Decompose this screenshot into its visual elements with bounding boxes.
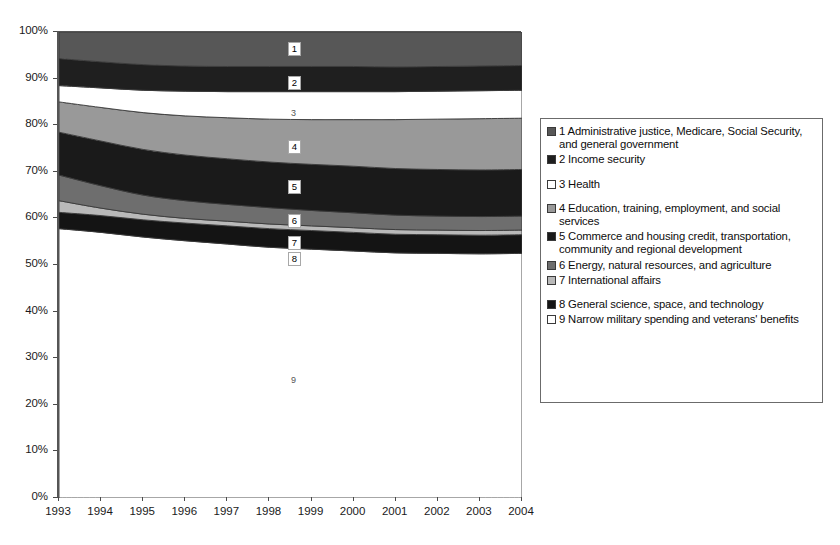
legend-item-label: 9 Narrow military spending and veterans'… xyxy=(559,313,799,326)
band-label-8: 8 xyxy=(288,252,301,266)
x-tick-mark xyxy=(395,497,396,501)
legend-item-3[interactable]: 3 Health xyxy=(547,178,817,191)
legend-swatch-icon xyxy=(547,155,556,164)
legend-swatch-icon xyxy=(547,232,556,241)
y-tick-label: 0% xyxy=(8,490,48,502)
legend-item-label: 7 International affairs xyxy=(559,274,661,287)
y-tick-label: 50% xyxy=(8,257,48,269)
band-label-2: 2 xyxy=(288,76,301,90)
x-tick-label: 1996 xyxy=(164,505,204,517)
x-tick-label: 2001 xyxy=(375,505,415,517)
x-tick-mark xyxy=(311,497,312,501)
legend-item-label: 4 Education, training, employment, and s… xyxy=(559,202,817,228)
stacked-area-chart: 0%10%20%30%40%50%60%70%80%90%100% 199319… xyxy=(0,0,840,545)
x-tick-mark xyxy=(142,497,143,501)
legend-item-5[interactable]: 5 Commerce and housing credit, transport… xyxy=(547,230,817,256)
legend-item-label: 1 Administrative justice, Medicare, Soci… xyxy=(559,125,817,151)
band-label-7: 7 xyxy=(288,236,301,250)
area-band-9 xyxy=(59,229,522,498)
x-tick-mark xyxy=(58,497,59,501)
y-tick-label: 30% xyxy=(8,350,48,362)
y-tick-label: 20% xyxy=(8,397,48,409)
legend-swatch-icon xyxy=(547,261,556,270)
legend-item-label: 8 General science, space, and technology xyxy=(559,298,763,311)
legend-item-9[interactable]: 9 Narrow military spending and veterans'… xyxy=(547,313,817,326)
x-tick-label: 2004 xyxy=(501,505,541,517)
x-tick-label: 1999 xyxy=(291,505,331,517)
y-tick-label: 90% xyxy=(8,71,48,83)
legend-item-label: 6 Energy, natural resources, and agricul… xyxy=(559,259,771,272)
legend-item-7[interactable]: 7 International affairs xyxy=(547,274,817,287)
y-tick-label: 40% xyxy=(8,304,48,316)
legend-item-6[interactable]: 6 Energy, natural resources, and agricul… xyxy=(547,259,817,272)
legend-item-label: 3 Health xyxy=(559,178,600,191)
legend-item-label: 5 Commerce and housing credit, transport… xyxy=(559,230,817,256)
legend-item-4[interactable]: 4 Education, training, employment, and s… xyxy=(547,202,817,228)
x-tick-mark xyxy=(479,497,480,501)
band-label-5: 5 xyxy=(288,180,301,194)
legend-swatch-icon xyxy=(547,127,556,136)
legend-item-1[interactable]: 1 Administrative justice, Medicare, Soci… xyxy=(547,125,817,151)
y-tick-label: 80% xyxy=(8,117,48,129)
x-tick-mark xyxy=(184,497,185,501)
x-tick-mark xyxy=(226,497,227,501)
x-tick-label: 1998 xyxy=(248,505,288,517)
legend-swatch-icon xyxy=(547,315,556,324)
x-tick-mark xyxy=(268,497,269,501)
x-tick-label: 1994 xyxy=(80,505,120,517)
legend-spacer xyxy=(547,289,817,298)
x-tick-label: 1993 xyxy=(38,505,78,517)
legend-swatch-icon xyxy=(547,276,556,285)
y-tick-label: 60% xyxy=(8,210,48,222)
legend-spacer xyxy=(547,193,817,202)
x-tick-label: 1995 xyxy=(122,505,162,517)
legend-item-8[interactable]: 8 General science, space, and technology xyxy=(547,298,817,311)
y-tick-label: 70% xyxy=(8,164,48,176)
legend-swatch-icon xyxy=(547,180,556,189)
band-label-6: 6 xyxy=(288,214,301,228)
legend-item-label: 2 Income security xyxy=(559,153,645,166)
chart-legend: 1 Administrative justice, Medicare, Soci… xyxy=(540,118,823,403)
x-tick-mark xyxy=(521,497,522,501)
legend-swatch-icon xyxy=(547,300,556,309)
legend-item-2[interactable]: 2 Income security xyxy=(547,153,817,166)
x-tick-label: 1997 xyxy=(206,505,246,517)
band-label-3: 3 xyxy=(288,107,299,119)
band-label-9: 9 xyxy=(288,374,299,386)
y-tick-label: 10% xyxy=(8,443,48,455)
y-tick-label: 100% xyxy=(8,24,48,36)
band-label-1: 1 xyxy=(288,42,301,56)
legend-spacer xyxy=(547,169,817,178)
legend-swatch-icon xyxy=(547,204,556,213)
x-tick-mark xyxy=(353,497,354,501)
x-tick-mark xyxy=(100,497,101,501)
band-label-4: 4 xyxy=(288,140,301,154)
x-tick-label: 2002 xyxy=(417,505,457,517)
x-tick-label: 2000 xyxy=(333,505,373,517)
x-tick-mark xyxy=(437,497,438,501)
x-tick-label: 2003 xyxy=(459,505,499,517)
